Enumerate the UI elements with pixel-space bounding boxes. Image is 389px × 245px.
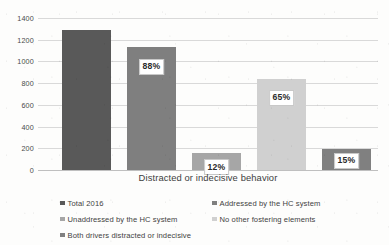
y-tick-600: 600	[0, 100, 34, 109]
legend-swatch-icon-unaddressed	[60, 217, 65, 222]
bar-both-drivers-distracted[interactable]: 15%	[322, 149, 371, 170]
legend-item-total-2016[interactable]: Total 2016	[60, 199, 212, 208]
y-axis-tick-labels: 0 200 400 600 800 1000 1200 1400	[0, 18, 34, 170]
legend-item-no-other-fostering-elements[interactable]: No other fostering elements	[212, 215, 315, 224]
y-tick-1400: 1400	[0, 14, 34, 23]
legend-row-2: Unaddressed by the HC system No other fo…	[60, 211, 350, 227]
legend-item-unaddressed-by-hc-system[interactable]: Unaddressed by the HC system	[60, 215, 212, 224]
legend-swatch-icon-both-drivers	[60, 233, 65, 238]
legend-swatch-icon-total-2016	[60, 201, 65, 206]
legend-swatch-icon-no-other	[212, 217, 217, 222]
bar-no-other-fostering-elements[interactable]: 65%	[257, 79, 306, 170]
y-tick-1000: 1000	[0, 57, 34, 66]
bar-fill-total-2016	[62, 30, 111, 170]
y-tick-0: 0	[0, 166, 34, 175]
legend-label-unaddressed: Unaddressed by the HC system	[68, 215, 178, 224]
legend-label-no-other: No other fostering elements	[220, 215, 316, 224]
legend-row-1: Total 2016 Addressed by the HC system	[60, 195, 350, 211]
bar-chart-figure: 0 200 400 600 800 1000 1200 1400 88% 12%	[0, 0, 389, 245]
bar-data-label-no-other: 65%	[269, 90, 295, 106]
chart-legend: Total 2016 Addressed by the HC system Un…	[60, 195, 350, 243]
y-tick-400: 400	[0, 122, 34, 131]
legend-swatch-icon-addressed	[212, 201, 217, 206]
legend-label-total-2016: Total 2016	[68, 199, 104, 208]
legend-item-addressed-by-hc-system[interactable]: Addressed by the HC system	[212, 199, 320, 208]
bar-unaddressed-by-hc-system[interactable]: 12%	[192, 153, 241, 170]
legend-label-addressed: Addressed by the HC system	[220, 199, 321, 208]
bar-data-label-addressed: 88%	[139, 59, 165, 75]
legend-item-both-drivers-distracted[interactable]: Both drivers distracted or indecisive	[60, 231, 191, 240]
bar-total-2016[interactable]	[62, 30, 111, 170]
y-tick-800: 800	[0, 79, 34, 88]
y-tick-200: 200	[0, 144, 34, 153]
y-tick-1200: 1200	[0, 35, 34, 44]
legend-row-3: Both drivers distracted or indecisive	[60, 227, 350, 243]
bar-data-label-both-drivers: 15%	[334, 153, 360, 169]
bar-addressed-by-hc-system[interactable]: 88%	[127, 47, 176, 170]
legend-label-both-drivers: Both drivers distracted or indecisive	[68, 231, 192, 240]
x-axis-title: Distracted or indecisive behavior	[38, 172, 378, 183]
bar-series-group: 88% 12% 65% 15%	[38, 18, 378, 170]
